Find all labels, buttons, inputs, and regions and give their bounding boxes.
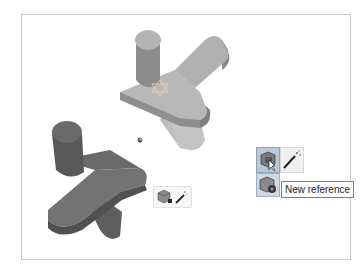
tooltip: New reference xyxy=(281,181,354,198)
new-reference-icon xyxy=(260,177,276,193)
rotate-cursor-icon xyxy=(137,137,142,143)
new-reference-button[interactable] xyxy=(256,173,280,197)
magic-wand-icon[interactable] xyxy=(176,191,188,203)
magic-wand-button[interactable] xyxy=(280,147,304,173)
cube-reference-button[interactable] xyxy=(256,147,280,173)
magic-wand-icon xyxy=(284,150,301,168)
cube-add-icon[interactable] xyxy=(158,190,172,203)
3d-scene[interactable] xyxy=(0,0,364,275)
mini-toolbar[interactable] xyxy=(153,186,192,208)
light-part[interactable] xyxy=(120,30,229,150)
dark-part[interactable] xyxy=(48,121,147,239)
